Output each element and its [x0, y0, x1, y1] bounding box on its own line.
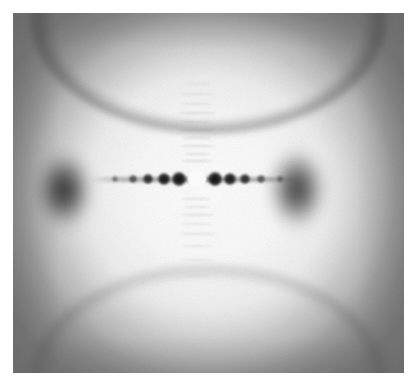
layer-line — [180, 93, 214, 95]
layer-line — [182, 121, 212, 123]
equatorial-spot — [112, 176, 118, 182]
layer-line — [182, 223, 212, 225]
top-dark-arc — [29, 13, 389, 135]
layer-line — [181, 160, 213, 162]
layer-line — [182, 103, 212, 105]
equatorial-spot — [277, 176, 283, 182]
layer-line — [184, 153, 210, 155]
film-plate — [13, 13, 404, 373]
layer-line — [184, 275, 210, 277]
equatorial-spot — [172, 172, 186, 186]
reflection-lobe-left — [33, 148, 95, 232]
layer-line — [182, 198, 212, 200]
layer-line — [179, 233, 215, 235]
layer-line — [178, 112, 216, 114]
layer-line — [184, 206, 210, 208]
layer-line — [180, 259, 214, 261]
equatorial-spot — [257, 175, 265, 183]
equatorial-spot — [240, 174, 250, 184]
equatorial-spot — [129, 175, 137, 183]
equatorial-spot — [158, 173, 171, 186]
reflection-lobe-right — [266, 146, 328, 232]
bottom-dark-arc — [29, 265, 389, 373]
layer-line — [180, 145, 214, 147]
diffraction-image-page — [0, 0, 415, 383]
layer-line — [180, 214, 214, 216]
layer-line — [184, 83, 210, 85]
equatorial-spot — [208, 172, 222, 186]
equatorial-spot — [143, 174, 153, 184]
layer-line — [183, 137, 211, 139]
layer-line — [182, 245, 212, 247]
beam-stop-disc — [188, 170, 206, 188]
equatorial-spot — [224, 173, 236, 185]
layer-line — [179, 129, 215, 131]
